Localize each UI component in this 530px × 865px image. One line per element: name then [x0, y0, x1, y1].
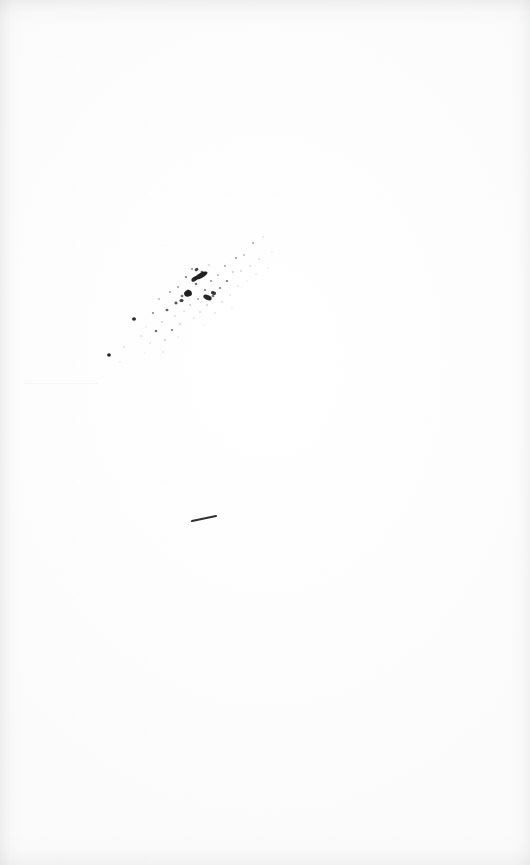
scanned-page — [0, 0, 530, 865]
paper-background — [0, 0, 530, 865]
